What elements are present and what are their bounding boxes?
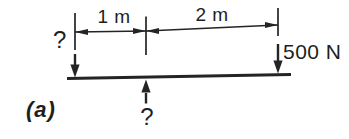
dimension-label-2m: 2 m: [195, 5, 228, 24]
beam: [67, 75, 291, 79]
figure-caption: (a): [26, 99, 56, 121]
dim-arrowhead-right-icon: [133, 28, 146, 34]
support-reaction-arrow: [141, 80, 150, 104]
beam-load-diagram: 1 m 2 m ? 500 N ? (a): [0, 0, 349, 139]
dimension-label-1m: 1 m: [97, 7, 130, 26]
dimension-1m: [75, 28, 146, 35]
down-arrowhead-icon: [70, 65, 79, 78]
applied-load-arrow: [273, 44, 282, 74]
applied-load-label: 500 N: [283, 41, 342, 62]
up-arrowhead-icon: [141, 80, 150, 93]
left-reaction-label: ?: [53, 28, 66, 52]
left-reaction-arrow: [70, 54, 79, 78]
dim-arrowhead-left-icon: [146, 28, 159, 34]
dimension-line-2m: [146, 25, 278, 31]
down-arrowhead-icon: [273, 61, 282, 74]
support-reaction-label: ?: [140, 105, 153, 129]
dim-arrowhead-left-icon: [75, 29, 88, 35]
dim-arrowhead-right-icon: [265, 22, 278, 28]
